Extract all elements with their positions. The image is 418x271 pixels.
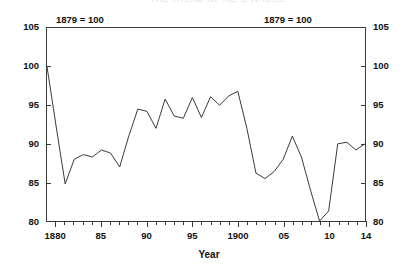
y-axis-left-tick-label: 105 bbox=[17, 21, 39, 32]
y-axis-left-tick-label: 100 bbox=[17, 60, 39, 71]
x-axis-tick bbox=[165, 221, 166, 225]
x-axis-tick bbox=[92, 221, 93, 225]
y-axis-right-tick-label: 80 bbox=[373, 216, 395, 227]
cut-off-header-strip: THE TREND OF REAL WAGES bbox=[0, 0, 418, 9]
plot-area bbox=[46, 27, 366, 222]
index-base-note-left: 1879 = 100 bbox=[56, 14, 104, 25]
x-axis-tick-label: 90 bbox=[127, 230, 167, 241]
x-axis-tick bbox=[156, 221, 157, 225]
x-axis-tick bbox=[174, 221, 175, 225]
y-axis-left-tick bbox=[47, 183, 51, 184]
x-axis-tick bbox=[302, 221, 303, 225]
x-axis-tick bbox=[64, 221, 65, 225]
x-axis-tick-label: 1880 bbox=[35, 230, 75, 241]
x-axis-tick bbox=[192, 221, 193, 227]
index-base-note-right: 1879 = 100 bbox=[264, 14, 312, 25]
x-axis-tick bbox=[265, 221, 266, 225]
x-axis-tick bbox=[211, 221, 212, 225]
series-line-real-wage-index bbox=[47, 67, 365, 221]
y-axis-left-tick-label: 95 bbox=[17, 99, 39, 110]
x-axis-tick-label: 05 bbox=[264, 230, 304, 241]
y-axis-right-tick bbox=[361, 144, 365, 145]
y-axis-left-tick bbox=[47, 66, 51, 67]
x-axis-tick bbox=[284, 221, 285, 227]
x-axis-tick bbox=[101, 221, 102, 227]
x-axis-tick-label: 10 bbox=[309, 230, 349, 241]
x-axis-tick bbox=[183, 221, 184, 225]
x-axis-tick bbox=[348, 221, 349, 225]
x-axis-tick bbox=[220, 221, 221, 225]
x-axis-tick bbox=[320, 221, 321, 225]
x-axis-tick-label: 85 bbox=[81, 230, 121, 241]
y-axis-right-tick-label: 95 bbox=[373, 99, 395, 110]
x-axis-tick-label: 1900 bbox=[218, 230, 258, 241]
x-axis-tick bbox=[119, 221, 120, 225]
x-axis-tick bbox=[275, 221, 276, 225]
x-axis-tick bbox=[147, 221, 148, 227]
x-axis-tick bbox=[293, 221, 294, 225]
x-axis-tick bbox=[201, 221, 202, 225]
y-axis-right-tick bbox=[361, 183, 365, 184]
x-axis-tick bbox=[83, 221, 84, 225]
y-axis-left-tick bbox=[47, 144, 51, 145]
y-axis-right-tick bbox=[361, 66, 365, 67]
x-axis-tick bbox=[339, 221, 340, 225]
x-axis-tick-label: 95 bbox=[172, 230, 212, 241]
x-axis-tick bbox=[256, 221, 257, 225]
x-axis-tick bbox=[128, 221, 129, 225]
x-axis-tick bbox=[366, 221, 367, 227]
x-axis-tick bbox=[55, 221, 56, 227]
x-axis-tick bbox=[238, 221, 239, 227]
x-axis-tick bbox=[229, 221, 230, 225]
y-axis-left-tick-label: 90 bbox=[17, 138, 39, 149]
y-axis-left-tick-label: 80 bbox=[17, 216, 39, 227]
y-axis-left-tick bbox=[47, 105, 51, 106]
x-axis-title: Year bbox=[0, 249, 418, 260]
x-axis-tick bbox=[110, 221, 111, 225]
x-axis-tick bbox=[247, 221, 248, 225]
x-axis-tick-label: 14 bbox=[346, 230, 386, 241]
x-axis-tick bbox=[137, 221, 138, 225]
x-axis-tick bbox=[357, 221, 358, 225]
data-line-svg bbox=[47, 28, 365, 221]
x-axis-tick bbox=[329, 221, 330, 227]
x-axis-tick bbox=[73, 221, 74, 225]
x-axis-tick bbox=[311, 221, 312, 225]
chart-container: THE TREND OF REAL WAGES 1879 = 100 1879 … bbox=[0, 0, 418, 271]
y-axis-right-tick-label: 90 bbox=[373, 138, 395, 149]
y-axis-right-tick bbox=[361, 105, 365, 106]
cut-off-header-text: THE TREND OF REAL WAGES bbox=[150, 0, 285, 4]
y-axis-right-tick-label: 85 bbox=[373, 177, 395, 188]
y-axis-right-tick-label: 100 bbox=[373, 60, 395, 71]
y-axis-right-tick-label: 105 bbox=[373, 21, 395, 32]
y-axis-left-tick-label: 85 bbox=[17, 177, 39, 188]
